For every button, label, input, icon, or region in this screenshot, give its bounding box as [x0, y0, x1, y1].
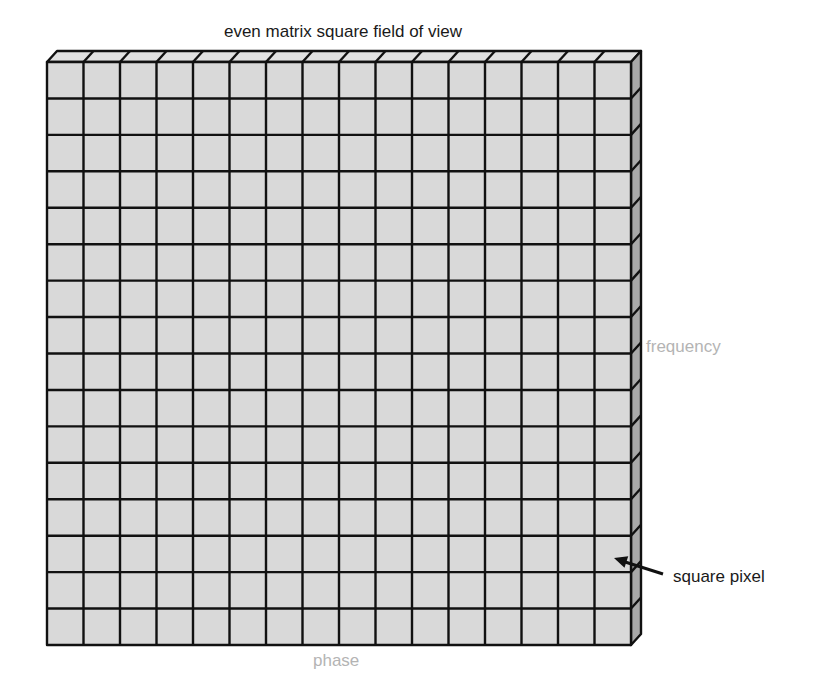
frequency-axis-label: frequency — [646, 337, 721, 357]
grid-cells — [47, 51, 641, 645]
square-pixel-annotation: square pixel — [673, 567, 765, 587]
phase-axis-label: phase — [313, 651, 359, 671]
